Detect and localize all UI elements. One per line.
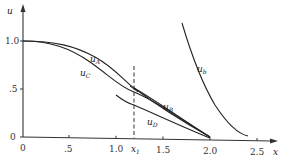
label-u-lower-b: ub xyxy=(197,64,207,75)
x-axis xyxy=(23,137,273,141)
y-axis-label: u xyxy=(7,6,13,16)
x-tick-label-25: 2.5 xyxy=(250,147,265,157)
curve-u-a xyxy=(23,41,210,137)
chart: 1.0 .5 0 0 .5 1.0 1.5 2.0 2.5 u x x1 uA … xyxy=(0,0,285,160)
x-tick-label-15: 1.5 xyxy=(156,145,171,155)
x-tick-label-10: 1.0 xyxy=(109,144,124,154)
label-u-a: uA xyxy=(90,54,101,65)
label-u-d: uD xyxy=(147,117,158,128)
y-axis-arrow-icon xyxy=(21,4,26,12)
label-u-c: uC xyxy=(80,68,91,79)
x-tick-label-0: 0 xyxy=(20,143,26,153)
x-tick-label-20: 2.0 xyxy=(203,146,218,156)
x-axis-label: x xyxy=(273,147,278,157)
curve-u-lower-b xyxy=(182,23,248,136)
x-axis-arrow-icon xyxy=(270,139,278,144)
y-tick-label-0: 0 xyxy=(10,132,16,142)
y-tick-label-1: 1.0 xyxy=(5,36,20,46)
label-u-b: uB xyxy=(163,102,174,113)
x-tick-label-05: .5 xyxy=(64,144,73,154)
y-tick-label-05: .5 xyxy=(9,84,18,94)
curve-u-c xyxy=(23,41,210,137)
x1-label: x1 xyxy=(131,144,140,155)
